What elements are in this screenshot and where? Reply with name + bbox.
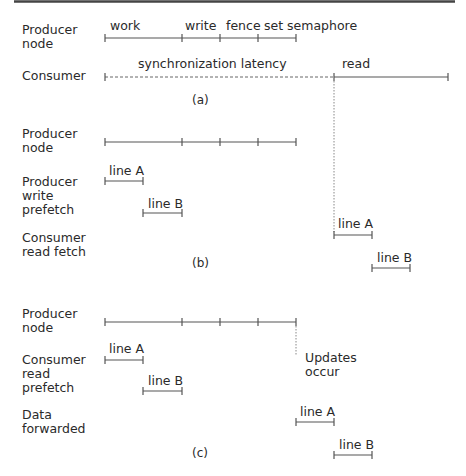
row-label-read-prefetch-line1: Consumer <box>22 352 87 367</box>
forwarded-line-a: line A <box>296 404 336 426</box>
phase-label-fence: fence <box>226 18 261 33</box>
write-prefetch-line-b: line B <box>143 196 183 217</box>
forwarded-line-b: line B <box>334 437 374 459</box>
producer-timeline <box>105 138 296 146</box>
row-label-write-prefetch-line1: Producer <box>22 174 78 189</box>
segment-label: line B <box>377 250 412 265</box>
row-label-read-prefetch-line2: read <box>22 366 50 381</box>
phase-label-set-semaphore: set semaphore <box>264 18 357 33</box>
producer-timeline <box>105 34 296 42</box>
section-c: Producer node Updates occur Consumer rea… <box>22 306 374 460</box>
row-label-write-prefetch-line3: prefetch <box>22 202 74 217</box>
read-prefetch-line-a: line A <box>105 341 145 364</box>
synchronization-timing-diagram: Producer node Consumer work write fence … <box>0 0 466 476</box>
caption-b: (b) <box>192 256 209 270</box>
segment-label: line B <box>339 437 374 452</box>
segment-label: line A <box>109 163 145 178</box>
read-prefetch-line-b: line B <box>143 373 183 395</box>
segment-label: line A <box>109 341 145 356</box>
phase-label-work: work <box>110 18 141 33</box>
segment-label: line B <box>148 196 183 211</box>
sync-latency-label: synchronization latency <box>138 56 287 71</box>
row-label-producer-line2: node <box>22 36 54 51</box>
write-prefetch-line-a: line A <box>105 163 145 185</box>
row-label-producer-line2: node <box>22 140 54 155</box>
row-label-forwarded-line2: forwarded <box>22 421 86 436</box>
producer-timeline <box>105 318 296 326</box>
read-label: read <box>342 56 370 71</box>
row-label-producer-line1: Producer <box>22 22 78 37</box>
read-fetch-line-a: line A <box>334 216 374 239</box>
segment-label: line A <box>300 404 336 419</box>
section-a: Producer node Consumer work write fence … <box>22 18 448 232</box>
row-label-consumer: Consumer <box>22 68 87 83</box>
segment-label: line A <box>338 216 374 231</box>
consumer-timeline <box>105 73 448 81</box>
row-label-write-prefetch-line2: write <box>22 188 54 203</box>
segment-label: line B <box>148 373 183 388</box>
row-label-producer-line2: node <box>22 320 54 335</box>
phase-label-write: write <box>185 18 217 33</box>
caption-c: (c) <box>192 446 208 460</box>
row-label-read-fetch-line2: read fetch <box>22 244 86 259</box>
row-label-forwarded-line1: Data <box>22 407 52 422</box>
read-fetch-line-b: line B <box>372 250 412 272</box>
row-label-read-prefetch-line3: prefetch <box>22 380 74 395</box>
section-b: Producer node Producer write prefetch li… <box>22 126 412 272</box>
row-label-producer-line1: Producer <box>22 306 78 321</box>
row-label-producer-line1: Producer <box>22 126 78 141</box>
updates-occur-line2: occur <box>305 364 340 379</box>
updates-occur-line1: Updates <box>305 350 357 365</box>
caption-a: (a) <box>192 93 209 107</box>
row-label-read-fetch-line1: Consumer <box>22 230 87 245</box>
